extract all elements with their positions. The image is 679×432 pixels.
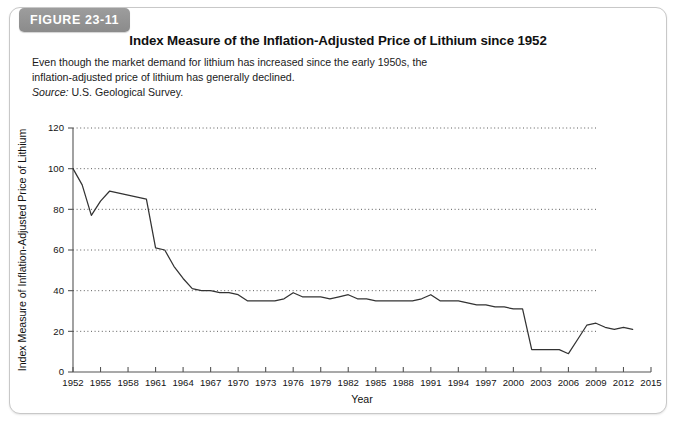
figure-number-label: FIGURE 23-11 [30, 13, 119, 27]
x-axis-tick-label: 2012 [613, 377, 634, 388]
x-axis-ticks: 1952195519581961196419671970197319761979… [62, 367, 661, 388]
x-axis-tick-label: 1991 [420, 377, 441, 388]
y-axis-tick-label: 0 [59, 366, 64, 377]
x-axis-tick-label: 1961 [145, 377, 166, 388]
x-axis-tick-label: 1970 [227, 377, 248, 388]
x-axis-tick-label: 1979 [310, 377, 331, 388]
data-series-line [73, 169, 633, 354]
x-axis-tick-label: 1982 [338, 377, 359, 388]
x-axis-tick-label: 2009 [585, 377, 606, 388]
figure-caption: Even though the market demand for lithiu… [32, 55, 452, 101]
x-axis-tick-label: 1967 [200, 377, 221, 388]
y-axis-ticks: 020406080100120 [48, 122, 73, 377]
y-axis-tick-label: 100 [48, 163, 64, 174]
x-axis-tick-label: 1985 [365, 377, 386, 388]
y-axis-tick-label: 40 [53, 285, 64, 296]
x-axis-tick-label: 1988 [393, 377, 414, 388]
x-axis-tick-label: 2000 [503, 377, 524, 388]
x-axis-tick-label: 1976 [283, 377, 304, 388]
lithium-price-line-chart: 020406080100120 195219551958196119641967… [10, 108, 668, 408]
y-axis-tick-label: 60 [53, 244, 64, 255]
x-axis-tick-label: 2003 [530, 377, 551, 388]
y-axis-tick-label: 120 [48, 122, 64, 133]
x-axis-tick-label: 1964 [172, 377, 194, 388]
figure-card: FIGURE 23-11 Index Measure of the Inflat… [9, 7, 667, 414]
y-axis-title: Index Measure of Inflation-Adjusted Pric… [16, 129, 28, 372]
x-axis-tick-label: 1958 [117, 377, 138, 388]
caption-line-1: Even though the market demand for lithiu… [32, 56, 375, 68]
y-axis-tick-label: 80 [53, 204, 64, 215]
x-axis-tick-label: 1997 [475, 377, 496, 388]
x-axis-tick-label: 2015 [640, 377, 661, 388]
figure-title: Index Measure of the Inflation-Adjusted … [10, 33, 666, 48]
source-label: Source: [32, 86, 69, 98]
x-axis-tick-label: 1973 [255, 377, 276, 388]
x-axis-title: Year [351, 393, 373, 405]
x-axis-tick-label: 2006 [558, 377, 579, 388]
chart-plot-area: 020406080100120 195219551958196119641967… [10, 108, 668, 408]
figure-number-badge: FIGURE 23-11 [19, 8, 130, 32]
x-axis-tick-label: 1955 [90, 377, 111, 388]
x-axis-tick-label: 1952 [62, 377, 83, 388]
source-text: U.S. Geological Survey. [69, 86, 184, 98]
y-axis-tick-label: 20 [53, 326, 64, 337]
x-axis-tick-label: 1994 [448, 377, 470, 388]
